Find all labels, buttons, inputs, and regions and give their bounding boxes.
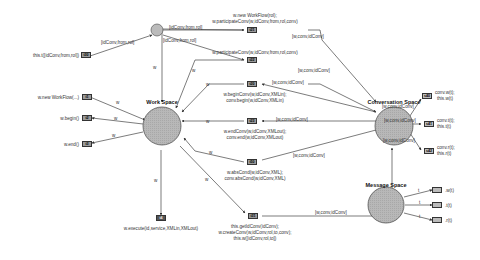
transition-m1[interactable] xyxy=(432,187,442,193)
transition-t22[interactable]: t22 xyxy=(247,57,257,63)
arc-label-w: w xyxy=(116,100,119,106)
m1-label: .w(t) xyxy=(445,188,454,194)
transition-t1[interactable]: t1 xyxy=(82,94,92,100)
s41-label-1: conv.t(t); xyxy=(437,118,455,124)
transition-t4[interactable]: t4 xyxy=(156,215,166,221)
work-space-title: Work Space xyxy=(146,100,177,106)
arc-label-t: t xyxy=(418,188,419,194)
t20-label-1: w.beginConv(w,idConv,XMLin); xyxy=(223,92,286,98)
arc-label-t: t xyxy=(419,214,420,220)
arc-label-w: w xyxy=(205,177,208,183)
t50-label-2: conv.absCond(w,idConv,XML) xyxy=(224,176,285,182)
transition-t31[interactable]: t31 xyxy=(248,213,258,219)
arc-label-wconv: [w,conv,idConv] xyxy=(298,68,330,74)
t23-label-2: conv.end(w,idConv,XMLout) xyxy=(227,135,284,141)
arc-label-t: t xyxy=(419,200,420,206)
transition-t3[interactable]: t3 xyxy=(82,141,92,147)
arc-label-w: w xyxy=(209,150,212,156)
s40-label-2: this.w(t) xyxy=(437,96,453,102)
s42-label-1: conv.r(t); xyxy=(437,145,455,151)
arc-label-idconv: [idConv,from,rol] xyxy=(163,38,196,44)
transition-s40[interactable]: s40 xyxy=(422,93,432,99)
arc-label-wconv: [w,conv,idConv] xyxy=(315,210,347,216)
transition-t30[interactable]: t30 xyxy=(81,52,91,58)
arc-label-wconv: [w,conv,idConv] xyxy=(384,118,416,124)
arc-label-w: w xyxy=(154,178,157,184)
petri-net-diagram: Work Space Conversation Space Message Sp… xyxy=(0,0,480,260)
transition-s42[interactable]: s42 xyxy=(424,148,434,154)
m2-label: .t(t) xyxy=(445,203,452,209)
transition-s41[interactable]: s41 xyxy=(424,121,434,127)
arc-label-w: w xyxy=(114,116,117,122)
t31-label-3: this.w([idConv,rol,to]) xyxy=(234,236,277,242)
arc-label-wconv: [w,conv,idConv] xyxy=(382,104,414,110)
t31-label-1: this.getIdConv(idConv); xyxy=(231,224,279,230)
transition-t20[interactable]: t20 xyxy=(247,81,257,87)
transition-m2[interactable] xyxy=(432,202,442,208)
t30-label: this.t([idConv,from,rol]) xyxy=(33,53,79,59)
arc-label-wconv: [w,conv,idConv] xyxy=(292,34,324,40)
s40-label-1: conv.w(t); xyxy=(435,90,455,96)
arc-label-wconv: [w,conv,idConv] xyxy=(272,80,304,86)
work-space-place xyxy=(143,107,181,145)
t2-label: w.begin() xyxy=(60,116,79,122)
transition-t2[interactable]: t2 xyxy=(82,115,92,121)
arc-label-wconv: [w,conv,idConv] xyxy=(383,138,415,144)
arc-label-w: w xyxy=(192,68,195,74)
arc-label-idconv: [idConv,from,rol] xyxy=(169,25,202,31)
t50-label-1: w.absCond(w,idConv,XML); xyxy=(227,170,283,176)
t21-label-2: w.participateConv(w,idConv,from,rol,conv… xyxy=(212,19,297,25)
s42-label-2: this.r(t) xyxy=(437,151,451,157)
arc-label-wconv: [w,conv,idConv] xyxy=(293,153,325,159)
arc-label-w: w xyxy=(112,133,115,139)
transition-t23[interactable]: t23 xyxy=(247,118,257,124)
t20-label-2: conv.begin(w,idConv,XMLin) xyxy=(226,98,284,104)
t4-label: w.execute(id,service,XMLin,XMLout) xyxy=(124,226,198,232)
t3-label: w.end() xyxy=(64,142,79,148)
arc-label-idconv: [idConv,from,rol] xyxy=(101,40,134,46)
t23-label-1: w.endConv(w,idConv,XMLout); xyxy=(224,129,286,135)
message-space-place xyxy=(368,187,404,223)
arc-label-w: w xyxy=(206,119,209,125)
arc-label-w: w xyxy=(153,65,156,71)
t22-label-1: w.participateConv(w,idConv,from,rol,conv… xyxy=(212,50,297,56)
t1-label: w.new WorkFlow(...) xyxy=(38,95,79,101)
transition-t50[interactable]: t50 xyxy=(247,159,257,165)
m3-label: .r(t) xyxy=(445,218,452,224)
arc-label-wconv: [w,conv,idConv] xyxy=(276,117,308,123)
transition-m3[interactable] xyxy=(432,217,442,223)
place-small xyxy=(151,24,163,36)
s41-label-2: this.t(t) xyxy=(437,124,451,130)
message-space-title: Message Space xyxy=(366,183,407,189)
arc-label-w: w xyxy=(206,82,209,88)
transition-t21[interactable]: t21 xyxy=(247,27,257,33)
t21-label-1: w.new WorkFlow(rol); xyxy=(233,13,277,19)
t31-label-2: w.createConv(w,idConv,rol,to,conv); xyxy=(219,230,292,236)
